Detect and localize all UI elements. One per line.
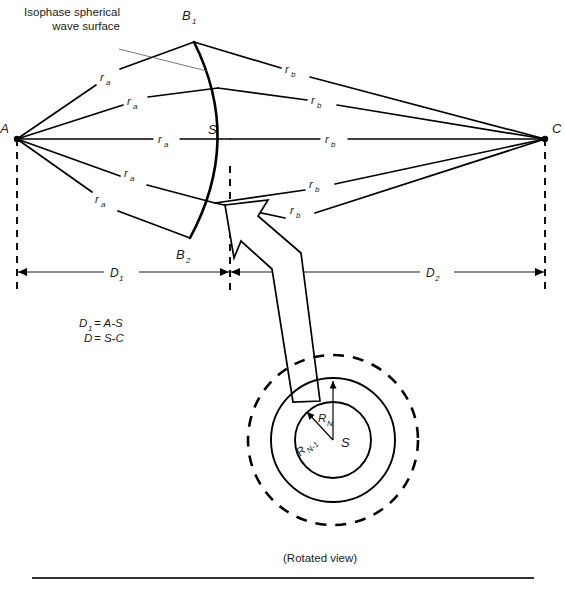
ray-label-left-3: r a	[158, 133, 169, 149]
dim-label-d2-sub: 2	[434, 274, 440, 283]
label-point-a: A	[0, 121, 9, 136]
ray-left-4a	[17, 139, 120, 176]
ray-left-2b	[148, 88, 218, 97]
ray-label-left-5: r a	[95, 193, 106, 209]
ray-label-left-1-main: r	[100, 71, 105, 83]
label-rn-main: R	[318, 412, 326, 424]
ray-label-right-2-main: r	[311, 94, 316, 106]
ray-label-right-1-sub: b	[291, 70, 296, 79]
equation-1-rhs: = A-S	[94, 317, 123, 329]
ray-label-left-2-main: r	[127, 95, 132, 107]
ray-left-1a	[17, 85, 96, 139]
ray-label-left-4: r a	[124, 167, 135, 183]
right-ray-group	[194, 42, 545, 218]
ray-label-right-5: r b	[290, 204, 301, 220]
ray-label-right-1-main: r	[285, 63, 290, 75]
isophase-wave-arc	[190, 42, 218, 238]
rotated-view-caption: (Rotated view)	[283, 552, 357, 564]
ray-right-1b	[310, 77, 545, 139]
label-point-b2: B	[176, 247, 185, 262]
label-point-c: C	[552, 121, 562, 136]
equation-2-lhs: D	[84, 332, 92, 344]
ray-label-right-5-sub: b	[296, 211, 301, 220]
label-point-b2-sub: 2	[185, 256, 191, 265]
ray-label-right-2-sub: b	[317, 101, 322, 110]
rotated-view-group	[248, 355, 418, 525]
ray-label-left-3-main: r	[158, 133, 163, 145]
label-rn-sub: N	[327, 419, 333, 428]
ray-label-left-4-sub: a	[130, 174, 135, 183]
equation-2-rhs: = S-C	[94, 332, 124, 344]
ray-left-5a	[17, 139, 92, 192]
ray-label-right-4-main: r	[309, 178, 314, 190]
ray-label-left-1-sub: a	[106, 78, 111, 87]
label-point-b1-sub: 1	[192, 17, 196, 26]
ray-label-right-3-sub: b	[331, 140, 336, 149]
ray-right-1a	[194, 42, 281, 68]
ray-left-4b	[147, 185, 215, 203]
ray-label-right-3-main: r	[325, 133, 330, 145]
ray-label-right-4-sub: b	[315, 185, 320, 194]
ray-left-2a	[17, 105, 123, 139]
dim-label-d1-main: D	[110, 266, 119, 280]
label-rn-minus-1: R N-1	[294, 435, 321, 462]
dim-label-d2: D 2	[426, 266, 440, 283]
ray-label-right-1: r b	[285, 63, 296, 79]
ray-right-5b	[315, 139, 545, 213]
ray-label-right-3: r b	[325, 133, 336, 149]
left-ray-group	[17, 42, 230, 238]
equation-line-1: D 1 = A-S	[79, 317, 123, 333]
isophase-note: Isophase spherical wave surface	[0, 6, 120, 33]
label-circle-center-s: S	[341, 435, 350, 450]
dim-label-d1-sub: 1	[119, 274, 123, 283]
ray-label-right-2: r b	[311, 94, 322, 110]
ray-left-5b	[118, 211, 190, 238]
label-point-s: S	[208, 122, 217, 137]
equation-line-2: D = S-C	[84, 332, 124, 344]
ray-label-left-5-sub: a	[101, 200, 106, 209]
label-point-b1: B	[182, 8, 191, 23]
ray-label-right-4: r b	[309, 178, 320, 194]
ray-right-2a	[218, 88, 307, 100]
ray-label-left-3-sub: a	[164, 140, 169, 149]
ray-right-4b	[335, 139, 545, 184]
dim-label-d1: D 1	[110, 266, 123, 283]
isophase-note-text: Isophase spherical wave surface	[24, 6, 120, 32]
equation-1-lhs: D	[79, 317, 87, 329]
dim-label-d2-main: D	[426, 266, 435, 280]
ray-label-right-5-main: r	[290, 204, 295, 216]
fresnel-zone-figure: A C S B 1 B 2 r a r a r a r a r a r b r …	[0, 0, 565, 594]
ray-label-left-5-main: r	[95, 193, 100, 205]
ray-label-left-1: r a	[100, 71, 111, 87]
ray-right-2b	[337, 105, 545, 139]
ray-label-left-4-main: r	[124, 167, 129, 179]
ray-label-left-2: r a	[127, 95, 138, 111]
isophase-label-leader	[119, 49, 207, 71]
ray-label-left-2-sub: a	[133, 102, 138, 111]
callout-arrow	[225, 200, 320, 402]
